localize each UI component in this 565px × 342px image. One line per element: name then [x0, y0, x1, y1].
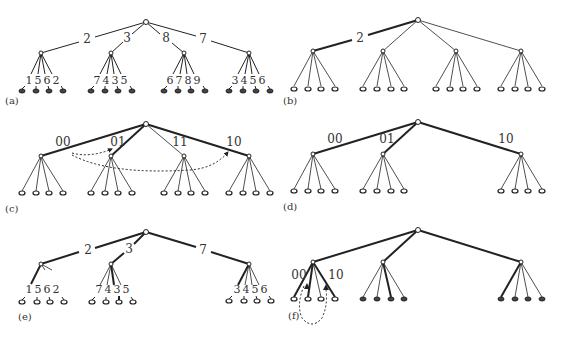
edge-label: 11	[172, 135, 187, 149]
leaf-label: 5	[252, 283, 259, 296]
panel-label-c: (c)	[5, 203, 19, 214]
leaf-label: 5	[250, 74, 257, 87]
edge-label: 01	[110, 135, 125, 149]
leaf-label: 5	[123, 283, 130, 296]
leaf-label: 4	[243, 283, 250, 296]
leaf-label: 1	[26, 74, 33, 87]
leaf-label: 7	[94, 74, 101, 87]
leaf-label: 3	[232, 74, 239, 87]
edge-label: 2	[83, 32, 91, 46]
edge-label: 8	[162, 31, 170, 45]
leaf-label: 8	[185, 74, 192, 87]
leaf-label: 1	[26, 283, 33, 296]
leaf-label: 4	[105, 283, 112, 296]
root-node	[144, 230, 149, 235]
leaf-label: 3	[114, 283, 121, 296]
leaf-label: 4	[103, 74, 110, 87]
root-node	[416, 120, 421, 125]
tree-diagram-figure: 2 3 8 7 1 5 6 2 7 4 3 5 6 7 8 9 3 4 5 6	[0, 0, 565, 342]
leaf-label: 3	[234, 283, 241, 296]
dotted-arrow	[72, 149, 112, 155]
leaf-label: 2	[53, 74, 60, 87]
leaf-label: 9	[194, 74, 201, 87]
edge-label: 00	[327, 132, 342, 146]
edge-label: 2	[356, 31, 364, 45]
leaf-label: 6	[44, 283, 51, 296]
panel-label-e: (e)	[18, 311, 32, 322]
panel-label-d: (d)	[283, 201, 297, 212]
edge-label: 00	[291, 268, 306, 282]
edge-label: 3	[125, 242, 133, 256]
leaf-label: 3	[112, 74, 119, 87]
root-node	[416, 18, 421, 23]
panel-c: 00 01 11 10 (c)	[5, 122, 273, 215]
edge-label: 3	[123, 31, 131, 45]
root-node	[144, 122, 149, 127]
leaf-label: 7	[176, 74, 183, 87]
edge-label: 7	[199, 32, 207, 46]
panel-b: 2 (b)	[283, 18, 545, 107]
panel-label-b: (b)	[283, 95, 297, 106]
panel-d: 00 01 10 (d)	[283, 120, 545, 213]
leaf-label: 6	[167, 74, 174, 87]
leaf-label: 7	[96, 283, 103, 296]
edge-label: 7	[199, 243, 207, 257]
leaf-label: 6	[259, 74, 266, 87]
leaf-label: 6	[261, 283, 268, 296]
leaf-label: 5	[35, 74, 42, 87]
panel-f: 00 10 (f)	[288, 228, 545, 325]
root-node	[144, 20, 149, 25]
root-node	[416, 228, 421, 233]
panel-e: 2 3 7 1 5 6 2 7 4 3 5 3 4 5 6 (e)	[18, 230, 274, 323]
edge-label: 10	[498, 132, 513, 146]
leaf-label: 4	[241, 74, 248, 87]
edge-label: 01	[379, 132, 394, 146]
dotted-arrow	[72, 152, 228, 171]
panel-a: 2 3 8 7 1 5 6 2 7 4 3 5 6 7 8 9 3 4 5 6	[5, 20, 273, 107]
leaf-label: 6	[44, 74, 51, 87]
panel-label-a: (a)	[5, 95, 19, 106]
panel-label-f: (f)	[288, 310, 300, 321]
leaf-label: 2	[53, 283, 60, 296]
edge-label: 10	[226, 135, 241, 149]
dotted-swap-arrow	[299, 286, 326, 324]
edge-label: 00	[55, 135, 70, 149]
edge-label: 10	[328, 268, 343, 282]
leaf-label: 5	[121, 74, 128, 87]
edge-label: 2	[84, 243, 92, 257]
leaf-label: 5	[35, 283, 42, 296]
